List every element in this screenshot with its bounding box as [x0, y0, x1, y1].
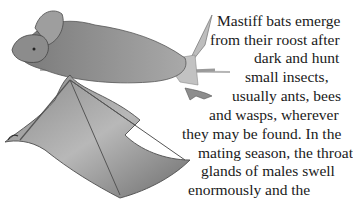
- passage-line: they may be found. In the: [182, 126, 341, 142]
- passage-line: enormously and the: [188, 182, 310, 198]
- passage-line: from their roost after: [210, 32, 340, 48]
- passage-line: and wasps, wherever: [209, 107, 339, 123]
- passage-line: Mastiff bats emerge: [217, 13, 340, 29]
- passage-line: dark and hunt: [254, 50, 339, 66]
- passage-line: small insects,: [245, 69, 329, 85]
- passage-line: glands of males swell: [201, 163, 335, 179]
- passage-line: usually ants, bees: [232, 88, 341, 104]
- passage-line: mating season, the throat: [198, 145, 353, 161]
